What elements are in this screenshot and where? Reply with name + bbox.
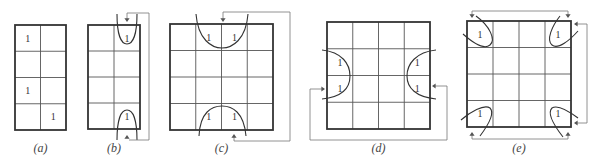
grouping-loop: [550, 107, 578, 137]
arrowhead-icon: [574, 21, 578, 26]
cell-value-one: 1: [337, 57, 342, 68]
cell-value-one: 1: [232, 111, 237, 122]
karnaugh-map-figure: 111(a)11(b)1111(c)1111(d)1111(e): [0, 0, 598, 165]
cell-value-one: 1: [125, 33, 130, 44]
cell-value-one: 1: [478, 108, 483, 119]
kmap-a: 111(a): [15, 25, 66, 155]
kmap-e: 1111(e): [461, 11, 587, 155]
cell-value-one: 1: [556, 29, 561, 40]
arrowhead-icon: [231, 134, 236, 138]
cell-value-one: 1: [125, 111, 130, 122]
arrowhead-icon: [432, 83, 436, 88]
cell-value-one: 1: [25, 85, 30, 96]
arrowhead-icon: [565, 132, 570, 136]
cell-value-one: 1: [556, 108, 561, 119]
figure-caption-a: (a): [34, 141, 48, 155]
arrowhead-icon: [565, 14, 570, 18]
wraparound-connector: [127, 13, 149, 140]
wraparound-connector: [575, 24, 587, 123]
arrowhead-icon: [469, 14, 474, 18]
wraparound-connector: [472, 11, 568, 17]
cell-value-one: 1: [51, 111, 56, 122]
arrowhead-icon: [220, 18, 225, 22]
figure-caption-b: (b): [107, 141, 121, 155]
arrowhead-icon: [321, 86, 325, 91]
kmap-d: 1111(d): [310, 22, 447, 155]
wraparound-connector: [472, 133, 568, 139]
arrowhead-icon: [469, 132, 474, 136]
cell-value-one: 1: [478, 29, 483, 40]
grouping-loop: [461, 107, 492, 136]
arrowhead-icon: [124, 135, 129, 139]
figure-caption-c: (c): [215, 141, 228, 155]
figure-caption-e: (e): [512, 141, 525, 155]
cell-value-one: 1: [25, 33, 30, 44]
cell-value-one: 1: [232, 32, 237, 43]
kmap-b: 11(b): [88, 13, 149, 155]
arrowhead-icon: [124, 18, 129, 22]
kmap-c: 1111(c): [170, 12, 290, 155]
arrowhead-icon: [574, 120, 578, 125]
figure-caption-d: (d): [372, 141, 386, 155]
grouping-loop: [407, 50, 436, 99]
